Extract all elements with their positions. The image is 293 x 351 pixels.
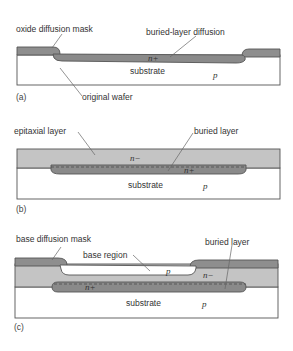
nplus-buried-b [51,165,246,174]
label-nminus-b: n− [130,153,141,163]
panel-label-a: (a) [16,92,27,102]
label-base-region: base region [83,250,128,260]
label-original-wafer: original wafer [82,92,133,102]
panel-a: oxide diffusion mask buried-layer diffus… [16,24,280,102]
panel-b: epitaxial layer buried layer n− n+ subst… [14,126,280,214]
label-substrate-c: substrate [126,298,161,308]
panel-label-b: (b) [16,204,27,214]
label-p-base: p [165,266,171,276]
label-buried-diffusion: buried-layer diffusion [146,27,225,37]
base-mask-right [190,260,278,268]
label-nplus-c: n+ [85,282,96,292]
label-base-mask: base diffusion mask [16,234,92,244]
label-buried-c: buried layer [205,237,250,247]
leader-oxide [52,34,62,48]
label-p-a: p [212,70,218,80]
label-epitaxial: epitaxial layer [14,126,66,136]
oxide-mask-right [242,49,280,57]
panel-c: base diffusion mask base region buried l… [14,234,278,332]
label-nplus-b: n+ [184,165,195,175]
label-buried-b: buried layer [194,126,239,136]
panel-label-c: (c) [14,322,24,332]
label-nplus-a: n+ [148,53,159,63]
label-substrate-b: substrate [128,180,163,190]
bipolar-process-diagram: oxide diffusion mask buried-layer diffus… [0,0,293,351]
label-p-b: p [202,181,208,191]
leader-buried-diffusion [170,36,196,57]
nplus-buried-c [52,282,246,292]
label-p-c: p [201,299,207,309]
p-base-region [60,265,196,275]
base-mask-left [15,258,67,266]
label-oxide-mask: oxide diffusion mask [16,24,94,34]
label-nminus-c: n− [203,270,214,280]
label-substrate-a: substrate [130,66,165,76]
